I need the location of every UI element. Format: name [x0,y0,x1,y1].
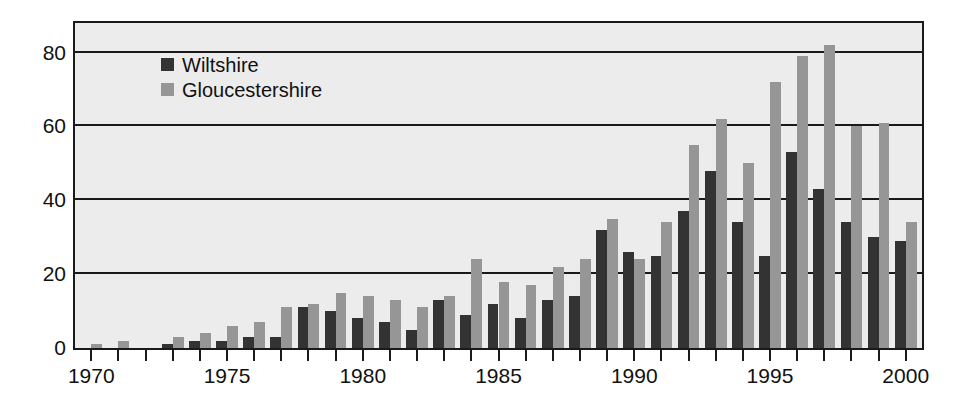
x-tick-1975 [226,350,228,361]
bar-wiltshire-1985 [488,304,499,348]
x-tick-label-2000: 2000 [882,365,929,386]
plot-area: Wiltshire Gloucestershire [73,21,924,350]
x-tick-1986 [525,350,527,361]
bar-wiltshire-1990 [623,252,634,348]
bar-wiltshire-1979 [325,311,336,348]
legend-label-gloucestershire: Gloucestershire [182,80,322,100]
x-tick-1988 [579,350,581,361]
bar-gloucestershire-1998 [851,126,862,348]
bar-gloucestershire-1975 [227,326,238,348]
x-tick-label-1980: 1980 [339,365,386,386]
legend-swatch-gloucestershire [161,83,174,96]
x-tick-1973 [172,350,174,361]
bar-wiltshire-1978 [298,307,309,348]
bar-wiltshire-1981 [379,322,390,348]
x-tick-1994 [742,350,744,361]
bar-gloucestershire-1989 [607,219,618,348]
bar-gloucestershire-1993 [716,119,727,348]
bar-gloucestershire-1997 [824,45,835,348]
bar-gloucestershire-1999 [879,123,890,348]
x-tick-1995 [769,350,771,361]
y-tick-label-40: 40 [8,189,66,210]
bar-gloucestershire-1990 [634,259,645,348]
bar-gloucestershire-1992 [689,145,700,348]
bar-wiltshire-1987 [542,300,553,348]
bar-gloucestershire-2000 [906,222,917,348]
x-tick-1971 [117,350,119,361]
chart-legend: Wiltshire Gloucestershire [161,52,322,102]
bar-wiltshire-1991 [651,256,662,348]
bar-gloucestershire-1986 [526,285,537,348]
bar-wiltshire-1997 [813,189,824,348]
x-tick-1989 [606,350,608,361]
legend-item-gloucestershire: Gloucestershire [161,77,322,102]
bar-gloucestershire-1974 [200,333,211,348]
legend-swatch-wiltshire [161,58,174,71]
bar-wiltshire-1992 [678,211,689,348]
bar-gloucestershire-1988 [580,259,591,348]
x-tick-1979 [335,350,337,361]
bar-wiltshire-1993 [705,171,716,348]
x-axis: 1970197519801985199019952000 [73,350,924,410]
x-tick-1999 [878,350,880,361]
x-tick-1981 [389,350,391,361]
x-tick-1978 [307,350,309,361]
gridline-60 [75,124,922,126]
x-tick-label-1995: 1995 [747,365,794,386]
x-tick-label-1975: 1975 [204,365,251,386]
x-tick-1996 [796,350,798,361]
bar-gloucestershire-1976 [254,322,265,348]
y-tick-label-60: 60 [8,115,66,136]
bar-gloucestershire-1981 [390,300,401,348]
x-tick-1997 [823,350,825,361]
x-tick-2000 [905,350,907,361]
bar-wiltshire-1976 [243,337,254,348]
bar-wiltshire-1982 [406,330,417,348]
bar-wiltshire-1988 [569,296,580,348]
bar-wiltshire-1996 [786,152,797,348]
bar-gloucestershire-1971 [118,341,129,348]
bar-wiltshire-1989 [596,230,607,348]
x-tick-1972 [145,350,147,361]
legend-item-wiltshire: Wiltshire [161,52,322,77]
bar-wiltshire-1998 [841,222,852,348]
bar-gloucestershire-1979 [336,293,347,348]
x-tick-1977 [280,350,282,361]
bar-gloucestershire-1983 [444,296,455,348]
bar-wiltshire-1999 [868,237,879,348]
bar-gloucestershire-1977 [281,307,292,348]
bar-gloucestershire-1987 [553,267,564,348]
bar-wiltshire-2000 [895,241,906,348]
bar-wiltshire-1974 [189,341,200,348]
bar-gloucestershire-1994 [743,163,754,348]
x-tick-1998 [850,350,852,361]
bar-wiltshire-1980 [352,318,363,348]
x-tick-1985 [498,350,500,361]
x-tick-1991 [660,350,662,361]
bar-wiltshire-1986 [515,318,526,348]
x-tick-1982 [416,350,418,361]
x-tick-1974 [199,350,201,361]
bar-gloucestershire-1996 [797,56,808,348]
bar-wiltshire-1984 [460,315,471,348]
y-tick-label-0: 0 [8,337,66,358]
x-tick-1984 [470,350,472,361]
bar-gloucestershire-1995 [770,82,781,348]
x-tick-1983 [443,350,445,361]
x-tick-1990 [633,350,635,361]
x-tick-label-1985: 1985 [475,365,522,386]
x-tick-label-1990: 1990 [611,365,658,386]
bar-wiltshire-1975 [216,341,227,348]
bar-gloucestershire-1991 [661,222,672,348]
bar-wiltshire-1977 [270,337,281,348]
bar-gloucestershire-1982 [417,307,428,348]
bar-wiltshire-1983 [433,300,444,348]
y-tick-label-20: 20 [8,263,66,284]
legend-label-wiltshire: Wiltshire [182,55,259,75]
x-tick-1980 [362,350,364,361]
bar-gloucestershire-1984 [471,259,482,348]
bar-gloucestershire-1980 [363,296,374,348]
bar-wiltshire-1995 [759,256,770,348]
bar-wiltshire-1973 [162,344,173,348]
bar-gloucestershire-1978 [308,304,319,348]
